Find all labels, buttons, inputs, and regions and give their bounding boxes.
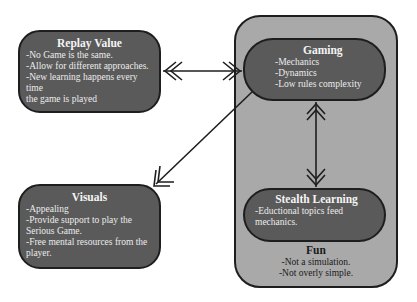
double-arrow-replay-gaming	[163, 62, 242, 80]
arrow-gaming-visuals	[154, 92, 252, 186]
double-arrow-gaming-stealth	[307, 102, 325, 187]
connector-arrows	[0, 0, 417, 302]
